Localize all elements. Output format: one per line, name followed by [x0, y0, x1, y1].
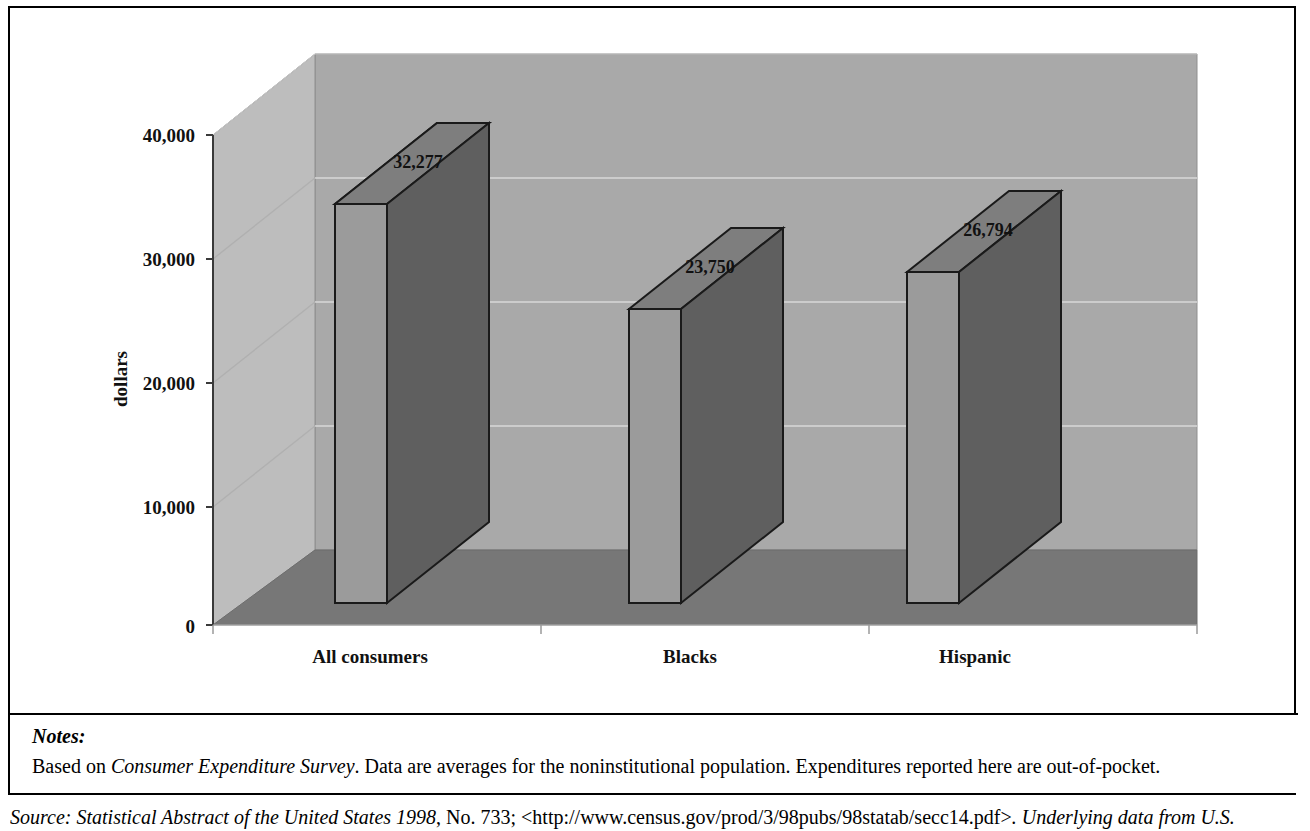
source-url: <http://www.census.gov/prod/3/98pubs/98s…	[521, 806, 1012, 828]
source-label: Source:	[10, 806, 71, 828]
notes-section: Notes: Based on Consumer Expenditure Sur…	[10, 713, 1298, 793]
page-root: 40,000 30,000 20,000 10,000 0 dollars 32…	[0, 0, 1310, 831]
notes-text-after: . Data are averages for the noninstituti…	[355, 755, 1161, 777]
bar-front-face	[335, 204, 387, 603]
bar-front-face	[907, 272, 959, 603]
source-line: Source: Statistical Abstract of the Unit…	[10, 806, 1310, 829]
y-tick-label-30000: 30,000	[143, 249, 195, 270]
y-tick-label-10000: 10,000	[143, 497, 195, 518]
y-tick-label-20000: 20,000	[143, 373, 195, 394]
source-citation: , No. 733;	[436, 806, 516, 828]
source-trailing: . Underlying data from U.S.	[1012, 806, 1235, 828]
y-tick-label-40000: 40,000	[143, 125, 195, 146]
chart-plot-area: 40,000 30,000 20,000 10,000 0 dollars 32…	[10, 8, 1298, 668]
bar-front-face	[629, 309, 681, 603]
x-category-label-hispanic: Hispanic	[939, 646, 1011, 667]
bar-value-label: 23,750	[685, 257, 735, 277]
y-axis-title: dollars	[110, 351, 131, 407]
source-publication: Statistical Abstract of the United State…	[76, 806, 436, 828]
bar-side-face	[387, 123, 489, 603]
chart-left-wall	[213, 54, 315, 625]
notes-text-before: Based on	[32, 755, 111, 777]
figure-box: 40,000 30,000 20,000 10,000 0 dollars 32…	[8, 6, 1296, 795]
y-tick-label-0: 0	[186, 616, 196, 637]
y-axis	[206, 135, 213, 625]
notes-heading: Notes:	[32, 725, 1276, 748]
x-axis-ticks	[213, 625, 1197, 634]
bar-value-label: 26,794	[963, 220, 1013, 240]
x-category-label-all-consumers: All consumers	[312, 646, 428, 667]
notes-survey-title: Consumer Expenditure Survey	[111, 755, 355, 777]
bar-chart-3d: 40,000 30,000 20,000 10,000 0 dollars 32…	[10, 8, 1298, 668]
bar-all-consumers[interactable]: 32,277	[335, 123, 489, 603]
bar-value-label: 32,277	[393, 152, 443, 172]
bar-hispanic[interactable]: 26,794	[907, 191, 1061, 603]
x-category-label-blacks: Blacks	[663, 646, 717, 667]
notes-body: Based on Consumer Expenditure Survey. Da…	[32, 754, 1276, 779]
